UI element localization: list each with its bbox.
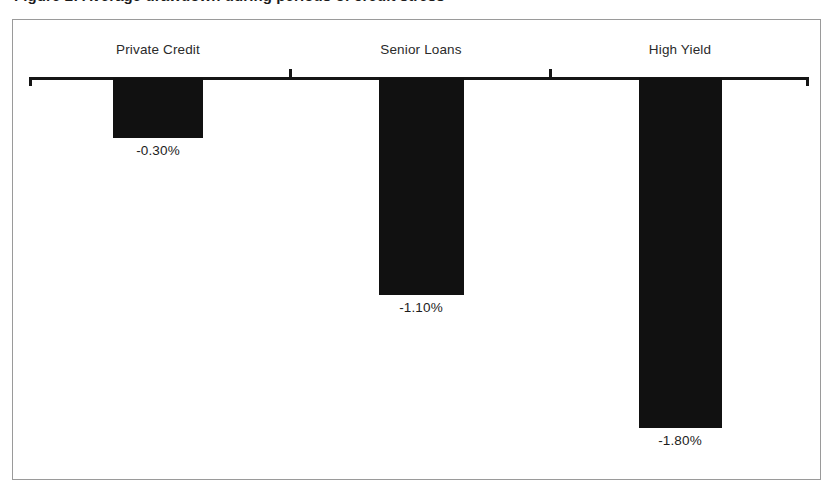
bar-private-credit[interactable] — [113, 78, 203, 138]
axis-separator-tick-2 — [549, 69, 552, 78]
axis-separator-tick-1 — [289, 69, 292, 78]
category-label-private-credit: Private Credit — [58, 42, 258, 57]
category-label-senior-loans: Senior Loans — [321, 42, 521, 57]
chart-title-strip: Figure 2: Average drawdown during period… — [0, 0, 834, 14]
value-label-high-yield: -1.80% — [580, 433, 780, 448]
chart-frame: Private Credit Senior Loans High Yield -… — [12, 19, 821, 480]
bar-senior-loans[interactable] — [379, 78, 464, 295]
axis-end-tick-right — [806, 77, 809, 86]
bar-high-yield[interactable] — [639, 78, 722, 428]
chart-title: Figure 2: Average drawdown during period… — [14, 0, 445, 4]
category-label-high-yield: High Yield — [580, 42, 780, 57]
value-label-senior-loans: -1.10% — [321, 300, 521, 315]
value-label-private-credit: -0.30% — [58, 143, 258, 158]
axis-end-tick-left — [29, 77, 32, 86]
plot-area: Private Credit Senior Loans High Yield -… — [13, 20, 820, 479]
